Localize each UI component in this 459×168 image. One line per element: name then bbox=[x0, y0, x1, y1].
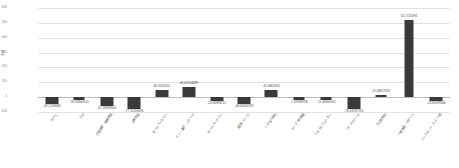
bar-value-label: 15.08627451 bbox=[372, 90, 390, 93]
bar-group[interactable]: 15.08627451 bbox=[368, 8, 395, 112]
x-axis-tick-label: 冷凍野菜・乾燥野菜 bbox=[95, 113, 113, 137]
y-axis-tick-label: 100 bbox=[0, 81, 7, 84]
y-axis-tick-label: 500 bbox=[0, 21, 7, 24]
bar-group[interactable]: -1.59338758 bbox=[285, 8, 312, 112]
bar[interactable] bbox=[128, 97, 141, 108]
bar[interactable] bbox=[45, 97, 58, 104]
bar-group[interactable]: 48.3251634 bbox=[148, 8, 175, 112]
x-axis-tick-label: ホームベーカリー bbox=[152, 113, 169, 135]
bar-value-label: -49.1748086 bbox=[43, 105, 60, 108]
bar-group[interactable]: -49.1748086 bbox=[38, 8, 65, 112]
bar[interactable] bbox=[265, 90, 278, 97]
bar-group[interactable]: -23.81699346 bbox=[423, 8, 450, 112]
bar-group[interactable]: -24.83983211 bbox=[203, 8, 230, 112]
bar-group[interactable]: -11.08460131 bbox=[313, 8, 340, 112]
x-axis-tick-label: アイスクリーム bbox=[346, 113, 361, 132]
x-axis-tick-label: ホームベーカリー bbox=[207, 113, 224, 135]
bar-group[interactable]: -78.43197255 bbox=[340, 8, 367, 112]
y-axis-tick-label: 400 bbox=[0, 36, 7, 39]
bar-value-label: -24.83983211 bbox=[207, 102, 226, 105]
bar-value-label: 66.62564899 bbox=[180, 82, 198, 85]
x-axis-tick-label: 健康ドリンク bbox=[238, 113, 251, 130]
bar[interactable] bbox=[404, 20, 413, 98]
bar-value-label: -18.09640615 bbox=[70, 101, 89, 104]
x-axis-tick-label: くだもの飲料 bbox=[265, 113, 278, 130]
x-axis-tick-label: パン・菓子・スナック bbox=[176, 113, 196, 140]
x-axis-tick-label: ミネラルウォーター bbox=[315, 113, 333, 137]
x-axis-tick-label: きのこ bbox=[51, 113, 59, 122]
x-axis-tick-label: スープ・即席麺 bbox=[291, 113, 306, 132]
bar-group[interactable]: -61.29349044 bbox=[93, 8, 120, 112]
bar-group[interactable]: -48.69430709 bbox=[230, 8, 257, 112]
bar-value-label: -1.59338758 bbox=[290, 101, 307, 104]
bar-group[interactable]: 66.62564899 bbox=[175, 8, 202, 112]
y-axis-tick-label: 600 bbox=[0, 6, 7, 9]
bar-value-label: -23.81699346 bbox=[427, 102, 446, 105]
bar-value-label: -11.08460131 bbox=[317, 101, 336, 104]
bar-group[interactable]: 521.720394 bbox=[395, 8, 422, 112]
plot-area: -49.1748086-18.09640615-61.29349044-77.1… bbox=[38, 8, 450, 112]
x-axis-tick-labels: きのこたけ冷凍野菜・乾燥野菜冷凍食品ホームベーカリーパン・菓子・スナックホームベ… bbox=[38, 113, 450, 168]
x-axis-tick-label: たけ bbox=[80, 113, 86, 120]
bar[interactable] bbox=[347, 97, 360, 109]
x-axis-tick-label: その他飲料 bbox=[377, 113, 388, 127]
bar[interactable] bbox=[376, 95, 387, 98]
bar[interactable] bbox=[155, 90, 168, 97]
bar-value-label: 521.720394 bbox=[401, 15, 417, 18]
bar-group[interactable]: 45.5865305 bbox=[258, 8, 285, 112]
bar-group[interactable]: -77.12418591 bbox=[120, 8, 147, 112]
y-axis-tick-label: 200 bbox=[0, 66, 7, 69]
bar[interactable] bbox=[183, 87, 196, 97]
y-axis-tick-label: 0 bbox=[0, 96, 7, 99]
y-axis-tick-label: 300 bbox=[0, 51, 7, 54]
bar-chart: 金額 -1000100200300400500600 -49.1748086-1… bbox=[0, 0, 459, 168]
bar-value-label: -48.69430709 bbox=[234, 105, 253, 108]
bar-series: -49.1748086-18.09640615-61.29349044-77.1… bbox=[38, 8, 450, 112]
bar-value-label: 45.5865305 bbox=[263, 85, 279, 88]
bar-value-label: -61.29349044 bbox=[97, 107, 116, 110]
y-axis-tick-label: -100 bbox=[0, 110, 7, 113]
bar[interactable] bbox=[100, 97, 113, 106]
x-axis-tick-label: インスタントコーヒー類 bbox=[421, 113, 443, 142]
bar-group[interactable]: -18.09640615 bbox=[65, 8, 92, 112]
x-axis-tick-label: 冷凍食品 bbox=[131, 113, 141, 125]
x-axis-tick-label: 一般食品・デザート bbox=[397, 113, 415, 137]
bar-value-label: 48.3251634 bbox=[153, 85, 169, 88]
bar[interactable] bbox=[237, 97, 250, 104]
